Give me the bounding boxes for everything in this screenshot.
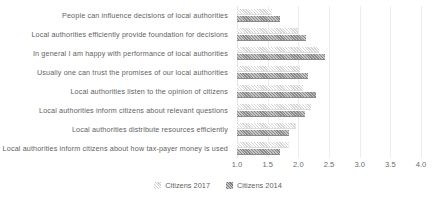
- x-tick-label: 3.0: [354, 160, 365, 169]
- bar-citizens-2014: [237, 111, 305, 117]
- bar-group: [237, 101, 421, 120]
- bar-citizens-2014: [237, 16, 280, 22]
- plot-area: [237, 6, 421, 158]
- category-label: Local authorities listen to the opinion …: [70, 82, 228, 101]
- legend-item-citizens-2014[interactable]: Citizens 2014: [226, 181, 282, 190]
- x-axis-ticks: 1.01.52.02.53.03.54.0: [237, 160, 421, 174]
- category-label: In general I am happy with performance o…: [33, 44, 228, 63]
- bar-group: [237, 120, 421, 139]
- x-tick-label: 1.5: [262, 160, 273, 169]
- legend-swatch-icon: [226, 182, 233, 189]
- bar-group: [237, 139, 421, 158]
- bar-citizens-2014: [237, 130, 289, 136]
- bar-citizens-2017: [237, 142, 289, 148]
- category-axis-labels: People can influence decisions of local …: [0, 6, 232, 158]
- x-tick-label: 2.5: [324, 160, 335, 169]
- legend-label: Citizens 2017: [165, 181, 210, 190]
- category-label: Local authorities inform citizens about …: [39, 101, 228, 120]
- bar-citizens-2014: [237, 35, 306, 41]
- legend-item-citizens-2017[interactable]: Citizens 2017: [154, 181, 210, 190]
- bar-citizens-2017: [237, 104, 311, 110]
- bar-citizens-2014: [237, 149, 280, 155]
- bar-citizens-2014: [237, 54, 325, 60]
- bar-citizens-2017: [237, 66, 300, 72]
- gridline: [421, 6, 422, 158]
- legend-swatch-icon: [154, 182, 161, 189]
- bar-group: [237, 25, 421, 44]
- chart-legend: Citizens 2017 Citizens 2014: [0, 181, 436, 190]
- bar-group: [237, 6, 421, 25]
- bar-chart: People can influence decisions of local …: [0, 0, 436, 204]
- bar-rows: [237, 6, 421, 158]
- category-label: Local authorities efficiently provide fo…: [31, 25, 228, 44]
- bar-group: [237, 44, 421, 63]
- bar-citizens-2014: [237, 73, 308, 79]
- category-label: Usually one can trust the promises of ou…: [37, 63, 228, 82]
- bar-citizens-2014: [237, 92, 316, 98]
- x-tick-label: 3.5: [385, 160, 396, 169]
- bar-citizens-2017: [237, 47, 319, 53]
- x-tick-label: 4.0: [416, 160, 427, 169]
- category-label: Local authorities inform citizens about …: [3, 139, 228, 158]
- category-label: Local authorities distribute resources e…: [72, 120, 228, 139]
- bar-group: [237, 82, 421, 101]
- bar-citizens-2017: [237, 85, 303, 91]
- bar-citizens-2017: [237, 28, 298, 34]
- bar-group: [237, 63, 421, 82]
- category-label: People can influence decisions of local …: [62, 6, 228, 25]
- bar-citizens-2017: [237, 9, 272, 15]
- x-tick-label: 2.0: [293, 160, 304, 169]
- x-tick-label: 1.0: [232, 160, 243, 169]
- bar-citizens-2017: [237, 123, 296, 129]
- legend-label: Citizens 2014: [237, 181, 282, 190]
